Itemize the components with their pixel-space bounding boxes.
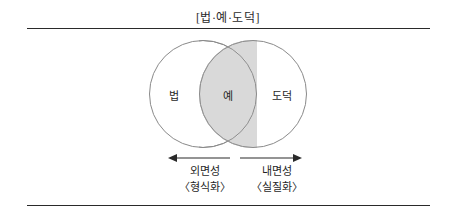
venn-label-morality: 도덕 bbox=[256, 87, 308, 103]
bottom-divider bbox=[27, 205, 430, 206]
legend-internality-main: 내면성 bbox=[232, 163, 322, 179]
figure-title: [법·예·도덕] bbox=[0, 8, 456, 26]
venn-label-propriety: 예 bbox=[203, 87, 253, 103]
legend-internality-sub: 〈실질화〉 bbox=[232, 179, 322, 195]
legend-internality: 내면성 〈실질화〉 bbox=[232, 163, 322, 195]
top-divider bbox=[27, 28, 430, 29]
axis-legend: 외면성 〈형식화〉 내면성 〈실질화〉 bbox=[0, 163, 456, 203]
venn-diagram: 법 예 도덕 bbox=[0, 40, 456, 150]
venn-label-law: 법 bbox=[149, 87, 199, 103]
figure-container: [법·예·도덕] 법 예 도덕 외면성 〈형식화〉 내면성 〈실질화〉 bbox=[0, 0, 456, 218]
